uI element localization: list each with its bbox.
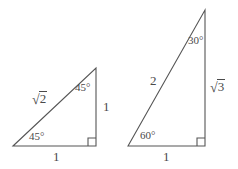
label-horizontal-leg-1: 1 — [53, 150, 60, 163]
triangles-drawing — [0, 0, 238, 169]
triangle-30-60-90 — [128, 10, 205, 146]
triangle-30-60-90-outline — [128, 10, 205, 146]
label-angle-30-top: 30° — [188, 35, 203, 46]
label-angle-45-left: 45° — [29, 131, 44, 142]
label-vertical-leg-sqrt3: √3 — [210, 80, 225, 95]
label-vertical-leg-1: 1 — [103, 100, 110, 113]
label-angle-60-left: 60° — [140, 130, 155, 141]
radicand-value: 3 — [217, 79, 226, 93]
label-hypotenuse-sqrt2: √2 — [32, 92, 47, 107]
label-horizontal-leg-1-right: 1 — [163, 150, 170, 163]
radicand-value: 2 — [39, 91, 48, 105]
figure-canvas: √2 45° 45° 1 1 2 30° 60° √3 1 — [0, 0, 238, 169]
triangle-45-45-90 — [13, 68, 96, 146]
label-angle-45-top: 45° — [75, 82, 90, 93]
label-hypotenuse-2: 2 — [150, 74, 157, 87]
right-angle-marker-left — [88, 138, 96, 146]
triangle-45-45-90-outline — [13, 68, 96, 146]
right-angle-marker-right — [197, 138, 205, 146]
